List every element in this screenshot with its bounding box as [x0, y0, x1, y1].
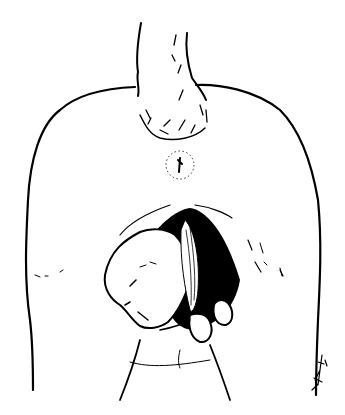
- artist-signature: [312, 355, 327, 390]
- neck-outline: [137, 23, 207, 140]
- lower-abdomen: [120, 340, 230, 400]
- navel: [166, 151, 194, 179]
- medical-illustration: [0, 0, 345, 415]
